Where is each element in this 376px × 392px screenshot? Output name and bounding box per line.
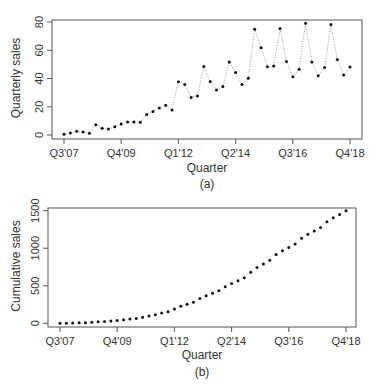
data-point bbox=[78, 321, 81, 324]
x-tick-label: Q4'09 bbox=[107, 147, 136, 159]
series-connector-line bbox=[64, 23, 350, 134]
chart-b-xlabel: Quarter bbox=[182, 348, 223, 362]
x-tick-label: Q1'12 bbox=[164, 147, 193, 159]
chart-b-ylabel: Cumulative sales bbox=[9, 220, 23, 311]
chart-b-plot-box: 050010001500Q3'07Q4'09Q1'12Q2'14Q3'16Q4'… bbox=[29, 198, 361, 347]
x-tick-label: Q4'09 bbox=[103, 335, 132, 347]
data-point bbox=[205, 294, 208, 297]
data-point bbox=[173, 307, 176, 310]
x-tick-label: Q2'14 bbox=[221, 147, 250, 159]
data-point bbox=[88, 132, 91, 135]
data-point bbox=[128, 318, 131, 321]
data-point bbox=[109, 320, 112, 323]
data-point bbox=[97, 320, 100, 323]
chart-a-xlabel: Quarter bbox=[187, 161, 228, 175]
data-point bbox=[228, 61, 231, 64]
x-tick-label: Q3'07 bbox=[45, 335, 74, 347]
data-point bbox=[132, 121, 135, 124]
data-point bbox=[243, 276, 246, 279]
data-point bbox=[230, 282, 233, 285]
data-point bbox=[65, 322, 68, 325]
data-point bbox=[300, 237, 303, 240]
data-point bbox=[317, 74, 320, 77]
data-point bbox=[151, 110, 154, 113]
data-point bbox=[234, 71, 237, 74]
data-point bbox=[167, 310, 170, 313]
data-point bbox=[113, 125, 116, 128]
y-tick-label: 80 bbox=[33, 16, 45, 28]
data-point bbox=[260, 46, 263, 49]
data-point bbox=[224, 285, 227, 288]
chart-a-ylabel: Quarterly sales bbox=[9, 38, 23, 119]
data-point bbox=[154, 313, 157, 316]
x-tick-label: Q4'18 bbox=[335, 147, 364, 159]
data-point bbox=[101, 127, 104, 130]
data-point bbox=[291, 75, 294, 78]
data-point bbox=[122, 318, 125, 321]
data-point bbox=[116, 319, 119, 322]
data-point bbox=[179, 305, 182, 308]
data-point bbox=[135, 317, 138, 320]
data-point bbox=[139, 121, 142, 124]
data-point bbox=[84, 321, 87, 324]
data-point bbox=[186, 303, 189, 306]
y-tick-label: 1500 bbox=[29, 198, 41, 222]
data-point bbox=[59, 322, 62, 325]
chart-a-panel-label: (a) bbox=[200, 177, 215, 191]
data-point bbox=[215, 89, 218, 92]
x-tick-label: Q4'18 bbox=[331, 335, 360, 347]
data-point bbox=[329, 23, 332, 26]
y-tick-label: 500 bbox=[29, 277, 41, 295]
y-tick-label: 1000 bbox=[29, 236, 41, 260]
figure: 020406080Q3'07Q4'09Q1'12Q2'14Q3'16Q4'18 … bbox=[0, 0, 376, 392]
data-point bbox=[256, 266, 259, 269]
data-point bbox=[164, 104, 167, 107]
y-tick-label: 60 bbox=[33, 44, 45, 56]
data-point bbox=[338, 213, 341, 216]
data-point bbox=[266, 65, 269, 68]
data-point bbox=[304, 22, 307, 25]
data-point bbox=[287, 246, 290, 249]
data-point bbox=[285, 60, 288, 63]
data-point bbox=[313, 230, 316, 233]
x-tick-label: Q3'16 bbox=[274, 335, 303, 347]
data-point bbox=[63, 133, 66, 136]
chart-b-panel-label: (b) bbox=[195, 365, 210, 379]
plot-frame bbox=[48, 208, 356, 327]
data-point bbox=[221, 85, 224, 88]
data-point bbox=[279, 27, 282, 30]
data-point bbox=[323, 66, 326, 69]
data-point bbox=[294, 243, 297, 246]
data-point bbox=[249, 271, 252, 274]
data-point bbox=[202, 65, 205, 68]
data-point bbox=[247, 77, 250, 80]
data-point bbox=[240, 83, 243, 86]
data-point bbox=[190, 96, 193, 99]
data-point bbox=[281, 249, 284, 252]
x-tick-label: Q2'14 bbox=[217, 335, 246, 347]
x-tick-label: Q3'16 bbox=[278, 147, 307, 159]
data-point bbox=[349, 66, 352, 69]
x-tick-label: Q3'07 bbox=[49, 147, 78, 159]
chart-a-quarterly-sales: 020406080Q3'07Q4'09Q1'12Q2'14Q3'16Q4'18 … bbox=[0, 0, 376, 196]
data-point bbox=[94, 123, 97, 126]
data-point bbox=[75, 130, 78, 133]
data-point bbox=[183, 83, 186, 86]
data-point bbox=[120, 122, 123, 125]
data-point bbox=[103, 320, 106, 323]
data-point bbox=[158, 107, 161, 110]
data-point bbox=[253, 28, 256, 31]
data-point bbox=[71, 321, 74, 324]
data-point bbox=[217, 289, 220, 292]
data-point bbox=[69, 132, 72, 135]
data-point bbox=[268, 259, 271, 262]
y-tick-label: 0 bbox=[29, 320, 41, 326]
data-point bbox=[345, 209, 348, 212]
data-point bbox=[196, 95, 199, 98]
data-point bbox=[171, 108, 174, 111]
data-point bbox=[319, 226, 322, 229]
data-point bbox=[310, 61, 313, 64]
data-point bbox=[107, 128, 110, 131]
data-point bbox=[236, 279, 239, 282]
data-point bbox=[177, 80, 180, 83]
